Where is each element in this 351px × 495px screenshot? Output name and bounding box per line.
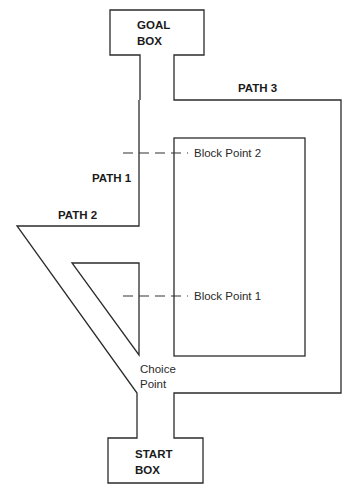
block-point-2-label: Block Point 2 <box>194 147 261 159</box>
inner-block-path2 <box>72 263 139 355</box>
start-box-label-2: BOX <box>135 464 160 476</box>
goal-box-label-2: BOX <box>137 35 162 47</box>
start-box-label-1: START <box>135 448 172 460</box>
path-3-label: PATH 3 <box>238 82 277 94</box>
maze-diagram: GOAL BOX PATH 3 PATH 1 PATH 2 Block Poin… <box>0 0 351 495</box>
block-point-1-label: Block Point 1 <box>194 290 261 302</box>
inner-block-path3 <box>174 138 305 356</box>
path-2-label: PATH 2 <box>58 209 97 221</box>
path-1-label: PATH 1 <box>92 172 132 184</box>
goal-box-label-1: GOAL <box>137 19 170 31</box>
choice-point-label-2: Point <box>140 378 167 390</box>
outer-wall-left <box>17 10 341 483</box>
choice-point-label-1: Choice <box>140 363 176 375</box>
